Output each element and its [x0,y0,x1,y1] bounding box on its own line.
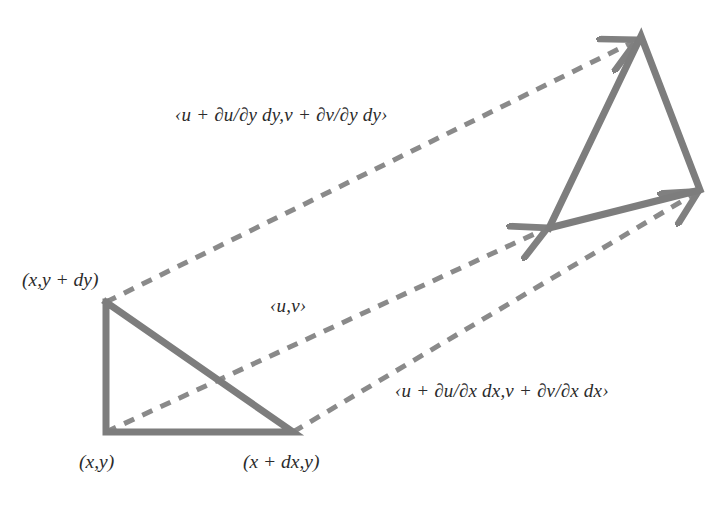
mid-vector-label: ‹u,v› [270,296,306,315]
displaced-fluid-element [549,36,700,228]
displacement-vectors [106,42,694,432]
bottom-vector-label: ‹u + ∂u/∂x dx,v + ∂v/∂x dx› [395,381,609,400]
vector-field-deformation-figure [0,0,724,511]
mid-displacement-vector [106,230,543,432]
point-label-x-y: (x,y) [79,452,114,472]
top-vector-label: ‹u + ∂u/∂y dy,v + ∂v/∂y dy› [175,105,388,124]
diagram-canvas: ‹u + ∂u/∂y dy,v + ∂v/∂y dy› ‹u,v› ‹u + ∂… [0,0,724,511]
point-label-x-y-plus-dy: (x,y + dy) [22,270,99,290]
displaced-base-edge [549,190,700,228]
point-label-x-plus-dx-y: (x + dx,y) [243,452,320,472]
original-fluid-element [106,302,293,432]
top-displacement-vector [106,42,633,302]
